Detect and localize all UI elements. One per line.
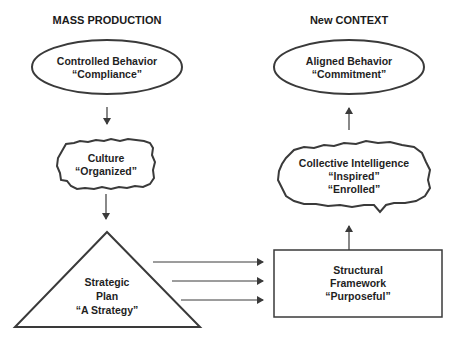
strategic-plan-line1: Strategic xyxy=(57,275,157,289)
structural-framework-line1: Structural xyxy=(274,264,442,277)
controlled-behavior-title: Controlled Behavior xyxy=(37,55,177,68)
collective-intelligence-title: Collective Intelligence xyxy=(279,157,429,170)
collective-intelligence-sub2: “Enrolled” xyxy=(279,183,429,196)
culture-title: Culture xyxy=(56,152,156,165)
structural-framework-line2: Framework xyxy=(274,277,442,290)
culture-subtitle: “Organized” xyxy=(56,165,156,178)
header-mass-production: MASS PRODUCTION xyxy=(32,14,182,26)
controlled-behavior-label: Controlled Behavior “Compliance” xyxy=(37,55,177,81)
strategic-plan-line2: Plan xyxy=(57,289,157,303)
header-new-context: New CONTEXT xyxy=(274,14,424,26)
structural-framework-label: Structural Framework “Purposeful” xyxy=(274,264,442,303)
aligned-behavior-label: Aligned Behavior “Commitment” xyxy=(279,55,419,81)
controlled-behavior-subtitle: “Compliance” xyxy=(37,68,177,81)
structural-framework-line3: “Purposeful” xyxy=(274,290,442,303)
aligned-behavior-title: Aligned Behavior xyxy=(279,55,419,68)
culture-label: Culture “Organized” xyxy=(56,152,156,178)
strategic-plan-label: Strategic Plan “A Strategy” xyxy=(57,275,157,317)
collective-intelligence-sub1: “Inspired” xyxy=(279,170,429,183)
strategic-plan-line3: “A Strategy” xyxy=(57,303,157,317)
collective-intelligence-label: Collective Intelligence “Inspired” “Enro… xyxy=(279,157,429,196)
aligned-behavior-subtitle: “Commitment” xyxy=(279,68,419,81)
